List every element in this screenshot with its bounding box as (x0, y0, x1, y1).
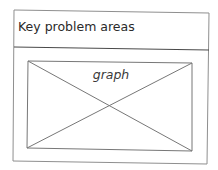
graph-placeholder-label: graph (84, 68, 138, 82)
panel-title: Key problem areas (18, 19, 135, 34)
header-divider (14, 47, 209, 50)
